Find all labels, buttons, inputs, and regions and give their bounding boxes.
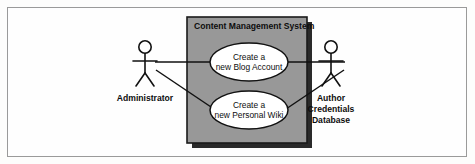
- diagram-canvas: Content Management System Create a new B…: [0, 0, 475, 164]
- actor-author-credentials-database[interactable]: Author Credentials Database: [308, 41, 355, 125]
- actor-administrator-head-icon: [139, 41, 151, 53]
- actor-authdb-label-line3: Database: [312, 115, 350, 125]
- actor-administrator-label: Administrator: [117, 93, 174, 103]
- actor-authdb-label-line1: Author: [317, 93, 346, 103]
- use-case-create-blog-account[interactable]: Create a new Blog Account: [210, 43, 288, 81]
- use-case-personal-wiki-line1: Create a: [233, 100, 265, 110]
- actor-administrator[interactable]: Administrator: [117, 41, 174, 103]
- use-case-blog-account-line1: Create a: [233, 52, 265, 62]
- actor-administrator-leg-right: [145, 73, 154, 86]
- use-case-blog-account-line2: new Blog Account: [216, 62, 283, 72]
- use-case-personal-wiki-line2: new Personal Wiki: [215, 110, 284, 120]
- actor-authdb-head-icon: [325, 41, 337, 53]
- actor-authdb-label-line2: Credentials: [308, 104, 355, 114]
- system-boundary-title: Content Management System: [194, 21, 315, 31]
- actor-administrator-leg-left: [136, 73, 145, 86]
- use-case-diagram: Content Management System Create a new B…: [0, 0, 475, 164]
- use-case-create-personal-wiki[interactable]: Create a new Personal Wiki: [210, 91, 288, 129]
